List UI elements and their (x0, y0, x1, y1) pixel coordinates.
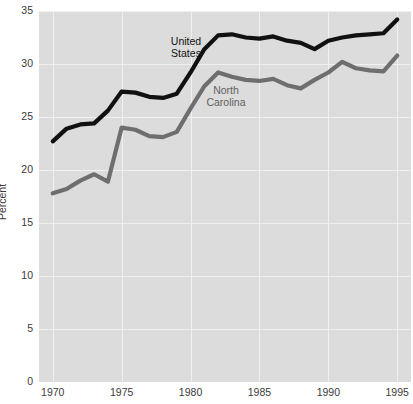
chart-container: 05101520253035 Percent 19701975198019851… (0, 0, 413, 404)
y-tick-label: 30 (3, 57, 33, 69)
series-label-united-states: United States (156, 35, 216, 59)
x-tick-label: 1990 (308, 386, 348, 398)
x-tick-label: 1980 (171, 386, 211, 398)
y-tick-label: 0 (3, 375, 33, 387)
chart-title (0, 0, 413, 4)
series-line-united-states (53, 19, 397, 141)
series-line-north-carolina (53, 56, 397, 194)
x-tick-label: 1985 (239, 386, 279, 398)
y-tick-label: 20 (3, 163, 33, 175)
x-tick-label: 1995 (377, 386, 413, 398)
y-axis-title: Percent (0, 184, 8, 220)
plot-area (39, 11, 411, 382)
y-tick-label: 25 (3, 110, 33, 122)
y-tick-label: 10 (3, 269, 33, 281)
x-tick-label: 1970 (33, 386, 73, 398)
y-tick-label: 35 (3, 4, 33, 16)
y-tick-label: 5 (3, 322, 33, 334)
x-tick-label: 1975 (102, 386, 142, 398)
series-label-north-carolina: North Carolina (194, 84, 258, 108)
data-lines (39, 11, 411, 382)
